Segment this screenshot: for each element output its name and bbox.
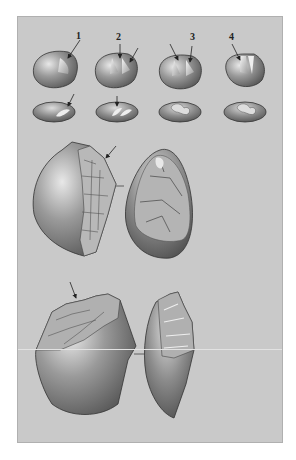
label-3: 3 xyxy=(190,31,195,42)
nodule-3 xyxy=(159,44,201,89)
flake-middle-right xyxy=(125,149,192,258)
plan-view-4 xyxy=(224,102,266,122)
nodule-4 xyxy=(226,44,265,87)
core-middle-left xyxy=(33,142,124,256)
label-2: 2 xyxy=(116,31,121,42)
nodule-2 xyxy=(95,44,138,88)
nodule-1 xyxy=(33,40,80,88)
plan-view-2 xyxy=(96,96,138,122)
illustration xyxy=(0,0,296,460)
plan-view-3 xyxy=(159,102,201,122)
plan-view-1 xyxy=(33,94,75,122)
label-4: 4 xyxy=(229,31,234,42)
flake-bottom-right xyxy=(144,292,194,418)
label-1: 1 xyxy=(76,30,81,41)
scan-line xyxy=(18,349,282,350)
